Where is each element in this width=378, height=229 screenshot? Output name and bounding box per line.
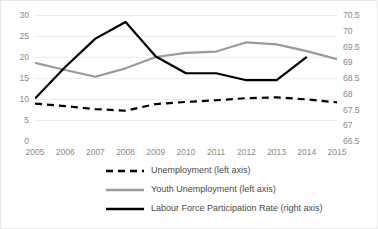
chart-canvas xyxy=(35,15,337,141)
legend-item[interactable]: Unemployment (left axis) xyxy=(1,161,378,180)
plot-area xyxy=(35,15,337,141)
x-axis-tick: 2012 xyxy=(229,148,263,157)
x-axis-tick: 2014 xyxy=(290,148,324,157)
gridlines xyxy=(35,15,337,141)
x-axis-tick: 2011 xyxy=(199,148,233,157)
series-line-1 xyxy=(35,42,337,76)
x-axis-tick: 2007 xyxy=(78,148,112,157)
legend-swatch-icon xyxy=(105,185,145,195)
left-axis-tick: 25 xyxy=(5,32,29,41)
chart-legend: Unemployment (left axis)Youth Unemployme… xyxy=(1,161,378,218)
right-axis-tick: 70.5 xyxy=(343,11,371,20)
right-axis-tick: 66.5 xyxy=(343,137,371,146)
left-axis-tick: 30 xyxy=(5,11,29,20)
legend-label: Youth Unemployment (left axis) xyxy=(151,185,276,194)
x-axis-tick: 2005 xyxy=(18,148,52,157)
right-axis-tick: 68.5 xyxy=(343,74,371,83)
x-axis-tick: 2008 xyxy=(109,148,143,157)
series-line-2 xyxy=(35,22,307,99)
left-axis-tick: 5 xyxy=(5,116,29,125)
x-axis-tick: 2013 xyxy=(260,148,294,157)
legend-swatch-icon xyxy=(105,204,145,214)
x-axis-tick: 2010 xyxy=(169,148,203,157)
legend-label: Labour Force Participation Rate (right a… xyxy=(151,204,323,213)
right-axis-tick: 67 xyxy=(343,121,371,130)
legend-swatch-icon xyxy=(105,166,145,176)
chart-figure: 051015202530 66.56767.56868.56969.57070.… xyxy=(0,0,378,229)
legend-item[interactable]: Youth Unemployment (left axis) xyxy=(1,180,378,199)
left-axis-tick: 15 xyxy=(5,74,29,83)
left-axis-tick: 10 xyxy=(5,95,29,104)
x-axis-tick: 2006 xyxy=(48,148,82,157)
right-axis-tick: 69 xyxy=(343,58,371,67)
right-axis-tick: 67.5 xyxy=(343,106,371,115)
right-axis-tick: 70 xyxy=(343,27,371,36)
right-axis-tick: 68 xyxy=(343,90,371,99)
x-axis-tick: 2015 xyxy=(320,148,354,157)
left-axis-tick: 0 xyxy=(5,137,29,146)
legend-label: Unemployment (left axis) xyxy=(151,166,251,175)
legend-item[interactable]: Labour Force Participation Rate (right a… xyxy=(1,199,378,218)
left-axis-tick: 20 xyxy=(5,53,29,62)
right-axis-tick: 69.5 xyxy=(343,43,371,52)
series-lines xyxy=(35,22,337,111)
x-axis-tick: 2009 xyxy=(139,148,173,157)
